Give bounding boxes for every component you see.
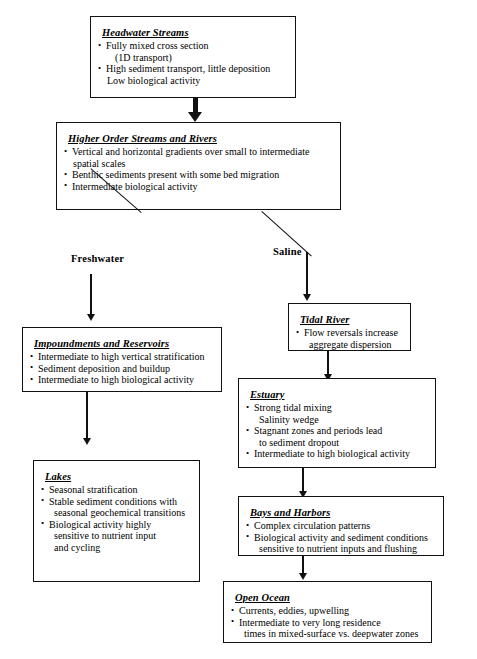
bullet-item: to sediment dropout (246, 437, 428, 449)
bullet-item: Intermediate to high biological activity (246, 448, 428, 460)
node-title: Bays and Harbors (250, 506, 330, 519)
node-bullet-list: Strong tidal mixing Salinity wedge Stagn… (246, 402, 428, 460)
node-bullet-list: Intermediate to high vertical stratifica… (30, 351, 214, 386)
bullet-item: Strong tidal mixing (246, 402, 428, 414)
connector-freshwater-to-impoundments (90, 274, 92, 316)
bullet-item: Biological activity and sediment conditi… (246, 532, 436, 544)
bullet-item: Low biological activity (98, 75, 288, 87)
bullet-item: High sediment transport, little depositi… (98, 63, 288, 75)
node-title: Higher Order Streams and Rivers (68, 132, 217, 145)
bullet-item: Stagnant zones and periods lead (246, 425, 428, 437)
node-bays-and-harbors: Bays and Harbors Complex circulation pat… (238, 496, 444, 556)
bullet-item: Salinity wedge (246, 414, 428, 426)
bullet-item: Intermediate to high vertical stratifica… (30, 351, 214, 363)
bullet-item: and cycling (41, 542, 192, 554)
node-title: Tidal River (300, 313, 349, 326)
node-title: Headwater Streams (102, 26, 189, 39)
node-bullet-list: Fully mixed cross section (1D transport)… (98, 40, 288, 86)
bullet-item: (1D transport) (98, 52, 288, 64)
node-bullet-list: Vertical and horizontal gradients over s… (64, 146, 333, 192)
bullet-item: Vertical and horizontal gradients over s… (64, 146, 333, 158)
connector-impoundments-to-lakes (86, 392, 88, 440)
bullet-item: times in mixed-surface vs. deepwater zon… (231, 628, 424, 640)
bullet-item: Seasonal stratification (41, 484, 192, 496)
bullet-item: Currents, eddies, upwelling (231, 605, 424, 617)
node-higher-order-streams-and-rivers: Higher Order Streams and Rivers Vertical… (56, 122, 341, 210)
node-impoundments-and-reservoirs: Impoundments and Reservoirs Intermediate… (22, 327, 222, 392)
node-title: Lakes (45, 470, 71, 483)
arrowhead-icon (87, 314, 95, 321)
node-bullet-list: Seasonal stratification Stable sediment … (41, 484, 192, 554)
bullet-item: seasonal geochemical transitions (41, 507, 192, 519)
bullet-item: aggregate dispersion (296, 339, 403, 351)
bullet-item: spatial scales (64, 158, 333, 170)
node-open-ocean: Open Ocean Currents, eddies, upwelling I… (223, 581, 432, 643)
arrowhead-icon (303, 294, 311, 301)
node-title: Estuary (250, 388, 285, 401)
bullet-item: sensitive to nutrient inputs and flushin… (246, 543, 436, 555)
branch-label-freshwater: Freshwater (71, 253, 124, 264)
bullet-item: Stable sediment conditions with (41, 496, 192, 508)
bullet-item: sensitive to nutrient input (41, 530, 192, 542)
connector-saline-to-tidal-river (306, 252, 308, 296)
node-lakes: Lakes Seasonal stratification Stable sed… (33, 460, 200, 582)
bullet-item: Fully mixed cross section (98, 40, 288, 52)
bullet-item: Complex circulation patterns (246, 520, 436, 532)
node-headwater-streams: Headwater Streams Fully mixed cross sect… (90, 16, 296, 98)
node-title: Impoundments and Reservoirs (34, 337, 169, 350)
bullet-item: Intermediate to high biological activity (30, 374, 214, 386)
flowchart-canvas: Headwater Streams Fully mixed cross sect… (0, 0, 477, 659)
branch-label-saline: Saline (273, 246, 302, 257)
bullet-item: Biological activity highly (41, 519, 192, 531)
arrowhead-icon (299, 573, 307, 580)
node-bullet-list: Flow reversals increase aggregate disper… (296, 327, 403, 350)
node-title: Open Ocean (235, 591, 290, 604)
bullet-item: Intermediate biological activity (64, 181, 333, 193)
arrowhead-icon (188, 112, 202, 122)
bullet-item: Sediment deposition and buildup (30, 363, 214, 375)
bullet-item: Intermediate to very long residence (231, 617, 424, 629)
arrowhead-icon (83, 438, 91, 445)
node-estuary: Estuary Strong tidal mixing Salinity wed… (238, 378, 436, 468)
bullet-item: Flow reversals increase (296, 327, 403, 339)
node-bullet-list: Currents, eddies, upwelling Intermediate… (231, 605, 424, 640)
node-tidal-river: Tidal River Flow reversals increase aggr… (288, 303, 411, 351)
node-bullet-list: Complex circulation patterns Biological … (246, 520, 436, 555)
